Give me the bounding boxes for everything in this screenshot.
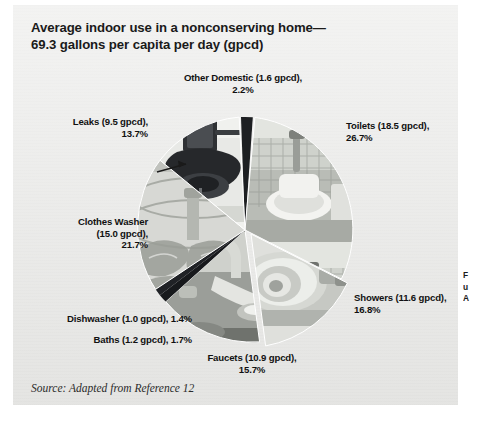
label-baths: Baths (1.2 gpcd), 1.7% (44, 334, 192, 346)
label-showers: Showers (11.6 gpcd), 16.8% (354, 292, 474, 315)
page-title: Average indoor use in a nonconserving ho… (31, 19, 361, 53)
label-dishwasher: Dishwasher (1.0 gpcd), 1.4% (16, 313, 192, 325)
figure-root: Average indoor use in a nonconserving ho… (0, 0, 482, 426)
title-line-1: Average indoor use in a nonconserving ho… (31, 19, 361, 36)
title-line-2: 69.3 gallons per capita per day (gpcd) (31, 36, 361, 53)
edge-caption-line-3: A (463, 293, 482, 305)
edge-caption-line-2: u (463, 282, 482, 294)
edge-caption-line-1: F (463, 270, 482, 282)
label-leaks: Leaks (9.5 gpcd), 13.7% (44, 116, 148, 139)
label-other-domestic: Other Domestic (1.6 gpcd), 2.2% (168, 72, 318, 95)
label-toilets: Toilets (18.5 gpcd), 26.7% (346, 120, 464, 143)
label-clothes-washer: Clothes Washer (15.0 gpcd), 21.7% (26, 216, 148, 251)
edge-caption: F u A (463, 270, 482, 305)
label-faucets: Faucets (10.9 gpcd), 15.7% (186, 352, 318, 375)
source-note: Source: Adapted from Reference 12 (31, 382, 194, 394)
